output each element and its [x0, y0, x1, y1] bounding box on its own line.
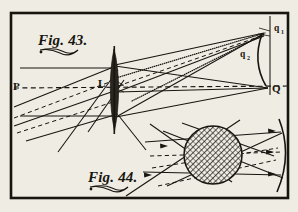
label-q1-subscript: 1 — [281, 29, 284, 35]
label-point-P: P — [13, 80, 20, 92]
label-q2-letter: q — [240, 49, 246, 59]
figure-43-ink-blot — [40, 51, 43, 54]
label-point-Q: Q — [272, 82, 281, 94]
label-q1-letter: q — [274, 23, 280, 33]
figure-44-caption: Fig. 44. — [87, 169, 138, 185]
optics-plate-drawing: P L Q q 1 q 2 Fig. 43. — [0, 0, 298, 212]
label-q2-subscript: 2 — [247, 55, 250, 61]
figure-44-ink-blot — [90, 188, 93, 191]
engraving-plate: P L Q q 1 q 2 Fig. 43. — [0, 0, 298, 212]
label-point-L: L — [98, 77, 105, 89]
figure-43-caption: Fig. 43. — [37, 32, 88, 48]
